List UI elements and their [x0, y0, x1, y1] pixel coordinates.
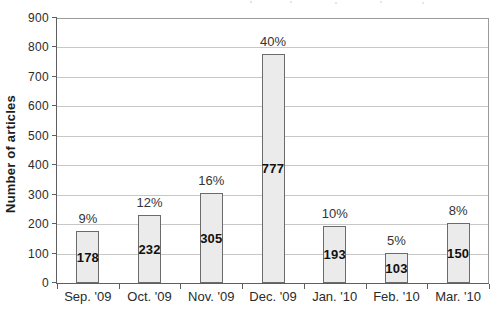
bar-oct-09: 232 — [138, 215, 161, 283]
y-tick-300 — [52, 194, 57, 195]
bar-mar-10: 150 — [447, 223, 470, 283]
y-tick-800 — [52, 46, 57, 47]
x-tick-7 — [489, 284, 490, 289]
y-tick-label-300: 300 — [19, 189, 49, 201]
bar-chart: Number of articles 1789%23212%30516%7774… — [0, 0, 497, 317]
y-tick-label-500: 500 — [19, 130, 49, 142]
bar-percent-label: 12% — [119, 196, 181, 209]
y-tick-label-200: 200 — [19, 218, 49, 230]
x-axis-label-jan-10: Jan. '10 — [304, 290, 366, 304]
x-axis-line — [56, 283, 489, 284]
cropped-title-remnant — [250, 1, 252, 3]
y-tick-label-700: 700 — [19, 71, 49, 83]
bar-percent-label: 16% — [180, 174, 242, 187]
y-tick-label-900: 900 — [19, 12, 49, 24]
bar-percent-label: 5% — [366, 234, 428, 247]
bar-percent-label: 40% — [242, 35, 304, 48]
x-axis-label-dec-09: Dec. '09 — [242, 290, 304, 304]
x-axis-label-sep-09: Sep. '09 — [57, 290, 119, 304]
y-axis-title: Number of articles — [3, 89, 19, 219]
x-tick-0 — [57, 284, 58, 289]
bar-nov-09: 305 — [200, 193, 223, 283]
bar-percent-label: 9% — [57, 212, 119, 225]
bar-value-label: 193 — [324, 247, 346, 262]
x-axis-label-oct-09: Oct. '09 — [119, 290, 181, 304]
x-tick-1 — [119, 284, 120, 289]
x-tick-3 — [242, 284, 243, 289]
y-tick-700 — [52, 76, 57, 77]
bar-percent-label: 8% — [427, 204, 489, 217]
y-tick-label-400: 400 — [19, 159, 49, 171]
bar-value-label: 103 — [385, 261, 407, 276]
y-tick-label-100: 100 — [19, 248, 49, 260]
bar-value-label: 178 — [77, 250, 99, 265]
plot-area: 1789%23212%30516%77740%19310%1035%1508% — [57, 18, 489, 283]
x-axis-label-feb-10: Feb. '10 — [366, 290, 428, 304]
y-tick-100 — [52, 253, 57, 254]
bar-sep-09: 178 — [76, 231, 99, 283]
y-tick-600 — [52, 105, 57, 106]
bar-percent-label: 10% — [304, 207, 366, 220]
y-tick-label-600: 600 — [19, 100, 49, 112]
y-tick-200 — [52, 223, 57, 224]
y-tick-label-0: 0 — [19, 277, 49, 289]
x-tick-2 — [180, 284, 181, 289]
bar-dec-09: 777 — [262, 54, 285, 283]
bar-value-label: 150 — [447, 246, 469, 261]
x-axis-label-nov-09: Nov. '09 — [180, 290, 242, 304]
x-tick-6 — [427, 284, 428, 289]
bar-value-label: 305 — [200, 231, 222, 246]
y-tick-900 — [52, 17, 57, 18]
bar-jan-10: 193 — [323, 226, 346, 283]
y-tick-0 — [52, 282, 57, 283]
y-tick-label-800: 800 — [19, 41, 49, 53]
y-tick-500 — [52, 135, 57, 136]
y-tick-400 — [52, 164, 57, 165]
bar-value-label: 232 — [138, 242, 160, 257]
x-tick-5 — [366, 284, 367, 289]
x-tick-4 — [304, 284, 305, 289]
bar-value-label: 777 — [262, 161, 284, 176]
y-axis-line — [56, 18, 57, 284]
x-axis-label-mar-10: Mar. '10 — [427, 290, 489, 304]
bar-feb-10: 103 — [385, 253, 408, 283]
